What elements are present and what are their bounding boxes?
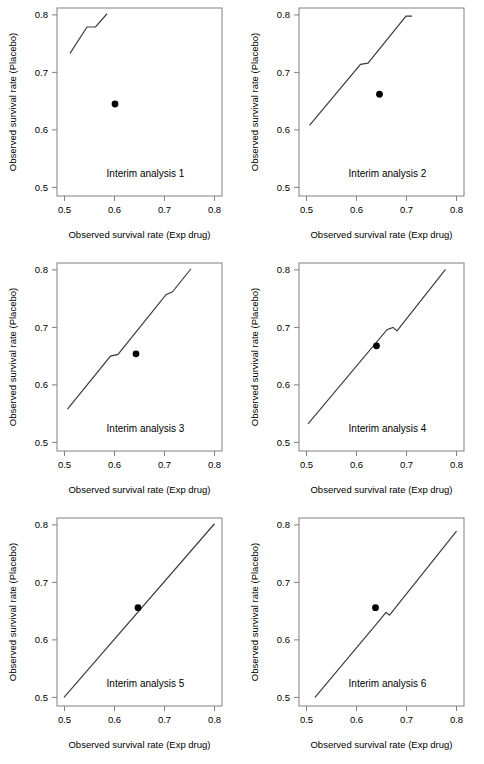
panel-interim-analysis-2: 0.50.60.70.80.50.60.70.8Observed surviva…	[242, 0, 484, 254]
y-tick-label: 0.5	[277, 692, 290, 703]
y-tick-label: 0.6	[35, 379, 48, 390]
x-tick-label: 0.5	[300, 204, 313, 215]
x-tick-label: 0.8	[450, 714, 463, 725]
x-tick-label: 0.8	[208, 714, 221, 725]
x-axis-title: Observed survival rate (Exp drug)	[310, 229, 452, 240]
x-tick-label: 0.8	[450, 204, 463, 215]
y-tick-label: 0.5	[277, 437, 290, 448]
y-tick-label: 0.8	[277, 264, 290, 275]
panel-title: Interim analysis 4	[349, 423, 427, 434]
y-axis-title: Observed survival rate (Placebo)	[7, 288, 18, 426]
x-axis-title: Observed survival rate (Exp drug)	[68, 739, 210, 750]
panel-plot-area-1: 0.50.60.70.80.50.60.70.8Observed surviva…	[0, 0, 242, 254]
y-tick-label: 0.6	[277, 634, 290, 645]
y-tick-label: 0.5	[35, 692, 48, 703]
x-tick-label: 0.6	[350, 714, 363, 725]
panel-plot-area-5: 0.50.60.70.80.50.60.70.8Observed surviva…	[0, 510, 242, 764]
x-tick-label: 0.5	[300, 459, 313, 470]
y-tick-label: 0.7	[277, 67, 290, 78]
x-tick-label: 0.8	[208, 459, 221, 470]
x-tick-label: 0.5	[58, 204, 71, 215]
y-axis-title: Observed survival rate (Placebo)	[249, 33, 260, 171]
y-axis-title: Observed survival rate (Placebo)	[7, 33, 18, 171]
panel-interim-analysis-5: 0.50.60.70.80.50.60.70.8Observed surviva…	[0, 510, 242, 764]
y-tick-label: 0.5	[277, 182, 290, 193]
x-axis-title: Observed survival rate (Exp drug)	[310, 484, 452, 495]
y-tick-label: 0.7	[35, 67, 48, 78]
panel-interim-analysis-4: 0.50.60.70.80.50.60.70.8Observed surviva…	[242, 255, 484, 509]
y-tick-label: 0.7	[35, 322, 48, 333]
figure-panel-grid: 0.50.60.70.80.50.60.70.8Observed surviva…	[0, 0, 484, 764]
x-tick-label: 0.6	[108, 714, 121, 725]
y-tick-label: 0.6	[277, 124, 290, 135]
panel-title: Interim analysis 6	[349, 678, 427, 689]
panel-interim-analysis-1: 0.50.60.70.80.50.60.70.8Observed surviva…	[0, 0, 242, 254]
observed-data-point	[376, 91, 383, 98]
y-tick-label: 0.7	[277, 322, 290, 333]
x-tick-label: 0.6	[108, 459, 121, 470]
y-tick-label: 0.5	[35, 437, 48, 448]
panel-plot-area-3: 0.50.60.70.80.50.60.70.8Observed surviva…	[0, 255, 242, 509]
y-axis-title: Observed survival rate (Placebo)	[249, 288, 260, 426]
x-tick-label: 0.7	[400, 459, 413, 470]
observed-data-point	[372, 604, 379, 611]
y-tick-label: 0.7	[277, 577, 290, 588]
x-tick-label: 0.7	[400, 204, 413, 215]
panel-title: Interim analysis 3	[107, 423, 185, 434]
x-axis-title: Observed survival rate (Exp drug)	[310, 739, 452, 750]
y-tick-label: 0.5	[35, 182, 48, 193]
x-tick-label: 0.5	[58, 459, 71, 470]
y-tick-label: 0.8	[277, 9, 290, 20]
observed-data-point	[135, 604, 142, 611]
x-tick-label: 0.7	[158, 459, 171, 470]
x-tick-label: 0.8	[450, 459, 463, 470]
y-axis-title: Observed survival rate (Placebo)	[249, 543, 260, 681]
panel-plot-area-4: 0.50.60.70.80.50.60.70.8Observed surviva…	[242, 255, 484, 509]
panel-interim-analysis-6: 0.50.60.70.80.50.60.70.8Observed surviva…	[242, 510, 484, 764]
observed-data-point	[373, 342, 380, 349]
y-tick-label: 0.6	[35, 634, 48, 645]
y-tick-label: 0.8	[35, 264, 48, 275]
x-tick-label: 0.6	[350, 204, 363, 215]
boundary-line	[310, 16, 413, 125]
panel-title: Interim analysis 5	[107, 678, 185, 689]
panel-title: Interim analysis 2	[349, 168, 427, 179]
x-tick-label: 0.8	[208, 204, 221, 215]
x-tick-label: 0.7	[400, 714, 413, 725]
boundary-line	[70, 14, 107, 54]
y-tick-label: 0.6	[35, 124, 48, 135]
x-axis-title: Observed survival rate (Exp drug)	[68, 229, 210, 240]
y-tick-label: 0.8	[35, 9, 48, 20]
y-axis-title: Observed survival rate (Placebo)	[7, 543, 18, 681]
observed-data-point	[112, 101, 119, 108]
x-tick-label: 0.6	[108, 204, 121, 215]
x-tick-label: 0.7	[158, 714, 171, 725]
panel-title: Interim analysis 1	[107, 168, 185, 179]
boundary-line	[315, 531, 457, 697]
panel-interim-analysis-3: 0.50.60.70.80.50.60.70.8Observed surviva…	[0, 255, 242, 509]
panel-plot-area-6: 0.50.60.70.80.50.60.70.8Observed surviva…	[242, 510, 484, 764]
x-tick-label: 0.6	[350, 459, 363, 470]
boundary-line	[68, 269, 192, 409]
x-axis-title: Observed survival rate (Exp drug)	[68, 484, 210, 495]
x-tick-label: 0.5	[300, 714, 313, 725]
x-tick-label: 0.7	[158, 204, 171, 215]
panel-plot-area-2: 0.50.60.70.80.50.60.70.8Observed surviva…	[242, 0, 484, 254]
x-tick-label: 0.5	[58, 714, 71, 725]
observed-data-point	[133, 350, 140, 357]
y-tick-label: 0.7	[35, 577, 48, 588]
y-tick-label: 0.8	[277, 519, 290, 530]
y-tick-label: 0.8	[35, 519, 48, 530]
y-tick-label: 0.6	[277, 379, 290, 390]
